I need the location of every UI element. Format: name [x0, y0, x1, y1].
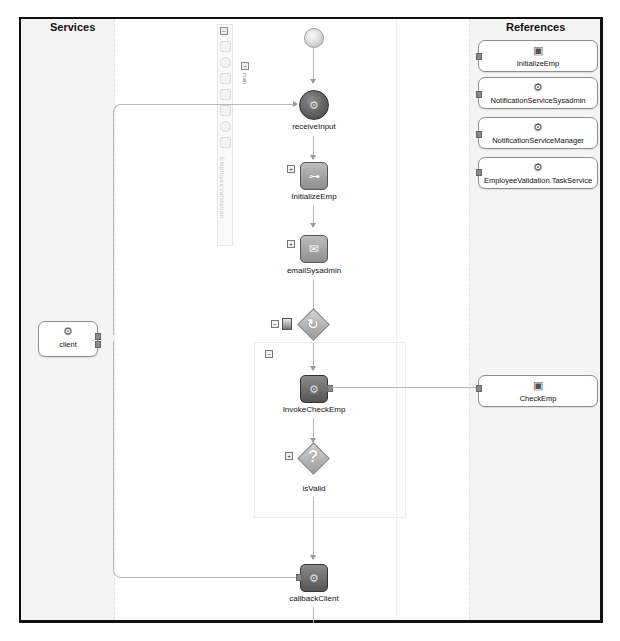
callback-client-label: callbackClient [289, 594, 338, 603]
events-icon[interactable] [220, 89, 231, 100]
reference-port [476, 131, 482, 138]
callback-client-activity[interactable]: ⚙ [300, 564, 328, 592]
connector [313, 47, 314, 83]
initialize-emp-label: InitializeEmp [291, 192, 336, 201]
receive-input-label: receiveInput [292, 122, 336, 131]
partner-links-icon[interactable] [220, 57, 231, 68]
reference-label: CheckEmp [479, 394, 597, 403]
palette-collapse-icon[interactable]: − [220, 27, 228, 35]
client-to-receive-connector [113, 104, 294, 335]
arrow-down-icon [310, 366, 316, 371]
gear-icon: ⚙ [309, 100, 319, 111]
lane-divider [396, 19, 397, 620]
client-port-out [95, 333, 101, 340]
reference-port [476, 385, 482, 392]
variables-icon[interactable] [220, 41, 231, 52]
email-sysadmin-expand-button[interactable]: + [287, 240, 295, 248]
client-port-in [95, 341, 101, 348]
reference-label: InitializeEmp [479, 59, 597, 68]
connector [313, 607, 314, 623]
arrow-down-icon [310, 555, 316, 560]
arrow-down-icon [310, 79, 316, 84]
email-sysadmin-label: emailSysadmin [287, 266, 341, 275]
reference-initialize-emp[interactable]: ▣ InitializeEmp [478, 40, 598, 72]
reference-label: NotificationServiceManager [479, 136, 597, 145]
bpel-diagram-canvas[interactable]: Services References − EmployeeValidation… [19, 17, 603, 623]
initialize-emp-activity[interactable]: ⊶ [300, 162, 328, 190]
references-lane: References [469, 19, 600, 620]
adapter-icon: ▣ [479, 379, 597, 391]
gear-icon: ⚙ [479, 121, 597, 133]
email-sysadmin-activity[interactable]: ✉ [300, 235, 328, 263]
arrow-down-icon [310, 155, 316, 160]
is-valid-label: isValid [303, 484, 326, 493]
documentation-icon[interactable] [282, 318, 292, 330]
gear-icon: ⚙ [309, 573, 319, 584]
services-lane-title: Services [50, 21, 95, 33]
loop-icon: ↻ [298, 316, 328, 332]
callback-to-client-connector [113, 341, 296, 578]
reference-port [476, 91, 482, 98]
assign-tree-icon: ⊶ [309, 170, 320, 183]
reference-label: NotificationServiceSysadmin [479, 96, 597, 105]
invoke-check-emp-activity[interactable]: ⚙ [300, 375, 328, 403]
correlation-icon[interactable] [220, 73, 231, 84]
gear-icon: ⚙ [479, 81, 597, 93]
main-sequence-label: main [242, 73, 248, 84]
services-lane: Services [21, 19, 115, 620]
while-collapse-button[interactable]: − [271, 320, 279, 328]
initialize-emp-expand-button[interactable]: + [287, 165, 295, 173]
receive-input-activity[interactable]: ⚙ [299, 90, 329, 120]
connector [313, 497, 314, 559]
client-service-label: client [39, 340, 97, 349]
reference-port [476, 53, 482, 60]
reference-employee-validation-task[interactable]: ⚙ EmployeeValidation.TaskService [478, 157, 598, 189]
reference-notification-sysadmin[interactable]: ⚙ NotificationServiceSysadmin [478, 77, 598, 109]
arrow-down-icon [310, 223, 316, 228]
reference-check-emp[interactable]: ▣ CheckEmp [478, 375, 598, 407]
callback-port [296, 574, 302, 581]
adapter-icon: ▣ [479, 44, 597, 56]
gear-icon: ⚙ [39, 325, 97, 337]
envelope-icon: ✉ [309, 242, 319, 256]
arrow-right-icon [293, 101, 298, 107]
reference-notification-manager[interactable]: ⚙ NotificationServiceManager [478, 117, 598, 149]
gear-icon: ⚙ [309, 384, 319, 395]
reference-label: EmployeeValidation.TaskService [479, 176, 597, 185]
invoke-to-check-emp-connector [332, 387, 480, 388]
start-node[interactable] [304, 28, 324, 48]
references-lane-title: References [506, 21, 565, 33]
gear-icon: ⚙ [479, 161, 597, 173]
client-service[interactable]: ⚙ client [38, 321, 98, 357]
main-collapse-icon[interactable]: − [241, 62, 249, 70]
question-icon: ? [298, 447, 328, 467]
reference-port [476, 169, 482, 176]
